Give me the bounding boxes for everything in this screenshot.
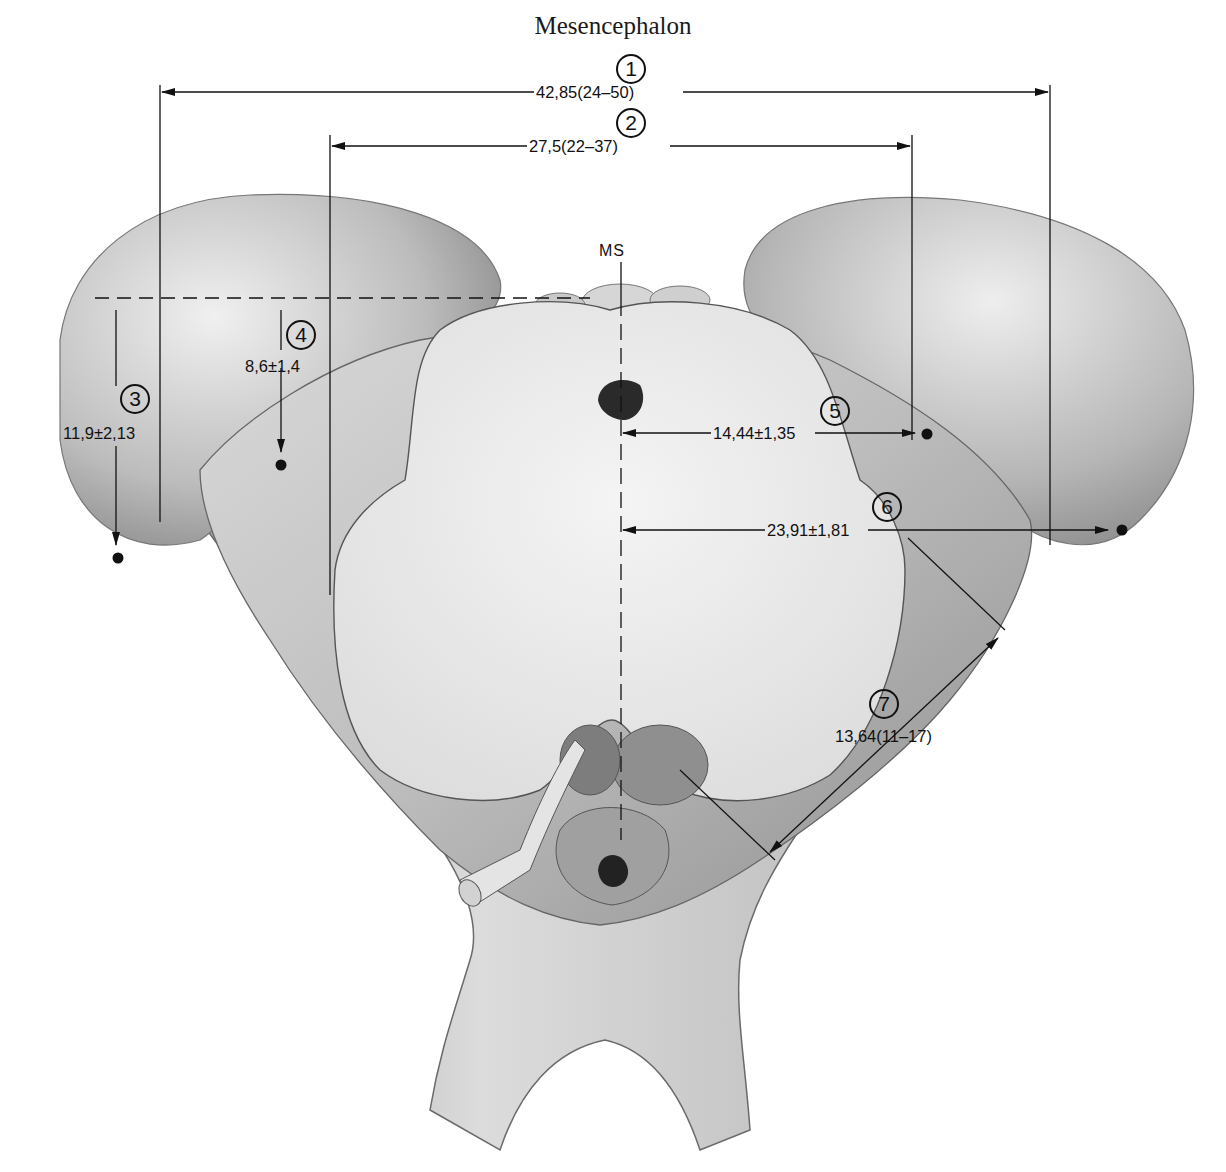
marker-3: 3 xyxy=(120,384,150,414)
measurement-3-value: 11,9±2,13 xyxy=(63,425,135,442)
measurement-6-value: 23,91±1,81 xyxy=(767,522,849,539)
marker-4: 4 xyxy=(286,320,316,350)
measurement-2-value: 27,5(22–37) xyxy=(529,138,618,155)
measurement-7-value: 13,64(11–17) xyxy=(835,728,932,745)
marker-7: 7 xyxy=(869,689,899,719)
measurement-1-value: 42,85(24–50) xyxy=(536,84,634,101)
marker-6: 6 xyxy=(872,492,902,522)
measurement-5-value: 14,44±1,35 xyxy=(713,425,795,442)
marker-5: 5 xyxy=(820,396,850,426)
marker-1: 1 xyxy=(616,54,646,84)
measurement-4-value: 8,6±1,4 xyxy=(245,358,300,375)
midline-label: MS xyxy=(599,242,625,260)
marker-2: 2 xyxy=(616,108,646,138)
mesencephalon-illustration xyxy=(0,0,1226,1172)
